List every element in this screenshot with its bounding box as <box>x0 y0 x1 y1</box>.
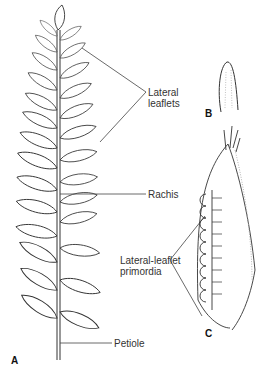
panel-label-a: A <box>11 355 18 366</box>
panel-label-b: B <box>205 108 212 119</box>
panel-label-c: C <box>205 328 212 339</box>
compound-leaf-diagram <box>0 0 261 371</box>
label-primordia: Lateral-leaflet primordia <box>120 255 181 277</box>
rachis <box>57 30 60 360</box>
label-lateral-leaflets: Lateral leaflets <box>148 87 180 109</box>
left-leaflets <box>15 18 61 322</box>
label-rachis: Rachis <box>148 189 179 200</box>
label-petiole: Petiole <box>114 338 145 349</box>
right-leaflets <box>58 24 102 334</box>
terminal-leaflet <box>55 5 65 30</box>
leaf-primordium-c <box>197 126 255 330</box>
leaf-primordium-b <box>219 62 238 112</box>
